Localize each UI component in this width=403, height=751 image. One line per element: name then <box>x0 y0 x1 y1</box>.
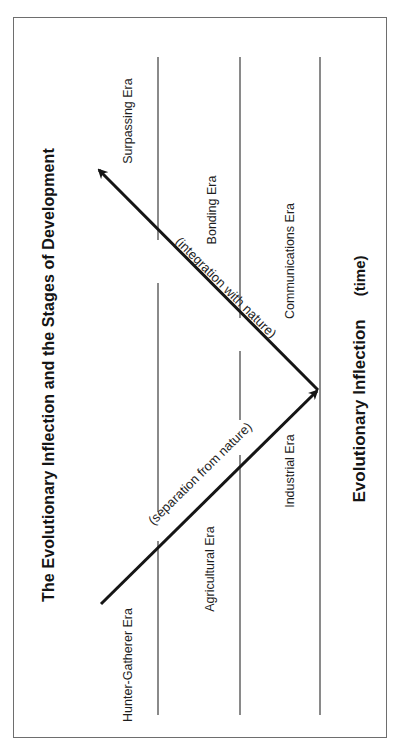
diagram-title: The Evolutionary Inflection and the Stag… <box>40 120 58 630</box>
era-label-agricultural: Agricultural Era <box>203 509 217 629</box>
era-label-surpassing: Surpassing Era <box>121 61 135 181</box>
era-label-bonding: Bonding Era <box>205 150 219 270</box>
era-label-industrial: Industrial Era <box>283 411 297 531</box>
era-label-communications: Communications Era <box>283 191 297 331</box>
axis-label-group: Evolutionary Inflection (time) <box>350 199 370 559</box>
axis-unit-label: (time) <box>351 256 368 297</box>
diagram-canvas <box>0 0 403 751</box>
axis-label: Evolutionary Inflection <box>350 319 369 502</box>
era-label-hunter-gatherer: Hunter-Gatherer Era <box>121 605 135 725</box>
